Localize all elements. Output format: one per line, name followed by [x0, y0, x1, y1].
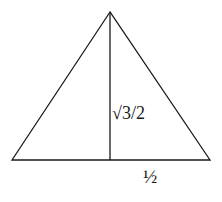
half-base-label: ½ [143, 166, 157, 188]
triangle-outline [12, 12, 210, 160]
height-label: √3/2 [112, 103, 145, 124]
triangle-diagram [0, 0, 222, 202]
